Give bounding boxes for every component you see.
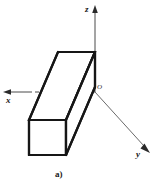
figure-caption: a) [55, 170, 63, 179]
technical-drawing-svg [0, 0, 156, 189]
z-axis-label: z [85, 5, 89, 14]
y-axis-arrowhead [141, 144, 151, 154]
y-axis-line [95, 92, 144, 146]
origin-label: O [97, 84, 102, 91]
rectangular-prism [29, 52, 95, 155]
prism-front-face [29, 120, 66, 155]
figure-container: z x y O a) [0, 0, 156, 189]
x-axis-label: x [6, 96, 11, 105]
y-axis-label: y [136, 150, 140, 159]
z-axis-arrowhead [92, 5, 98, 13]
x-axis-arrowhead [3, 89, 11, 95]
y-axis [95, 92, 150, 153]
